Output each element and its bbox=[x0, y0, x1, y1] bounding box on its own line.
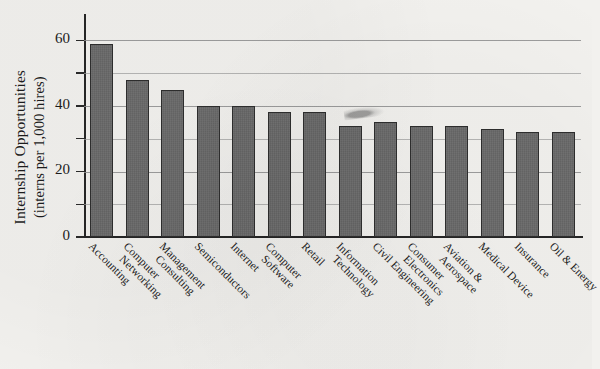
bar-series bbox=[84, 24, 581, 237]
bar bbox=[197, 106, 220, 237]
bar bbox=[552, 132, 575, 237]
bar bbox=[339, 126, 362, 237]
bar bbox=[445, 126, 468, 237]
bar bbox=[516, 132, 539, 237]
bar bbox=[268, 112, 291, 237]
y-tick-label-20: 20 bbox=[36, 161, 70, 178]
y-tick-label-0: 0 bbox=[36, 227, 70, 244]
x-axis-label-13: Oil & Energy bbox=[547, 240, 600, 293]
bar bbox=[410, 126, 433, 237]
y-tick-label-60: 60 bbox=[36, 30, 70, 47]
bar bbox=[90, 44, 113, 237]
x-axis-label-6: Retail bbox=[299, 240, 327, 268]
bar bbox=[374, 122, 397, 237]
bar bbox=[126, 80, 149, 237]
bar bbox=[232, 106, 255, 237]
plot-area bbox=[84, 24, 581, 237]
bar bbox=[161, 90, 184, 237]
bar bbox=[481, 129, 504, 237]
bar bbox=[303, 112, 326, 237]
x-axis-category-labels: AccountingComputerNetworkingManagementCo… bbox=[84, 240, 581, 365]
x-axis-label-5: ComputerSoftware bbox=[255, 240, 306, 291]
y-tick-label-40: 40 bbox=[36, 96, 70, 113]
